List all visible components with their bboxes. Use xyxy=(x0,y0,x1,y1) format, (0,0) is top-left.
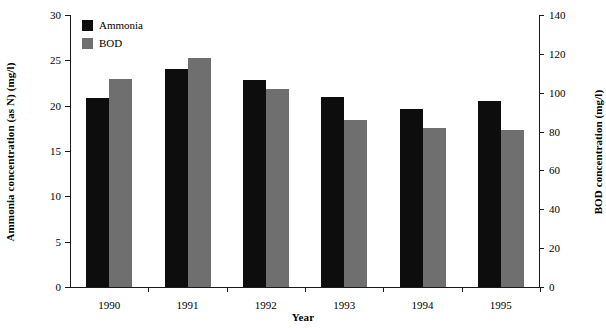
x-axis-tick xyxy=(148,287,149,292)
legend-swatch-icon xyxy=(82,38,93,49)
y-axis-left-tick xyxy=(65,287,70,288)
x-axis-tick-label: 1992 xyxy=(236,299,296,311)
bar-bod-1994 xyxy=(423,128,446,287)
y-axis-right-tick-label: 0 xyxy=(549,282,581,293)
bar-bod-1992 xyxy=(266,89,289,287)
x-axis-tick xyxy=(383,287,384,292)
bar-ammonia-1991 xyxy=(165,69,188,287)
y-axis-left-tick-label: 20 xyxy=(29,101,61,112)
y-axis-left-tick xyxy=(65,60,70,61)
x-axis-tick xyxy=(227,287,228,292)
x-axis-tick-label: 1994 xyxy=(393,299,453,311)
bar-ammonia-1992 xyxy=(243,80,266,287)
y-axis-right-tick-label: 80 xyxy=(549,127,581,138)
y-axis-right-tick-label: 120 xyxy=(549,49,581,60)
y-axis-right-tick xyxy=(539,170,544,171)
y-axis-right-tick-label: 60 xyxy=(549,165,581,176)
x-axis-tick xyxy=(540,287,541,292)
y-axis-right-tick xyxy=(539,248,544,249)
x-axis-tick xyxy=(305,287,306,292)
x-axis-tick-label: 1991 xyxy=(158,299,218,311)
y-axis-left-title: Ammonia concentration (as N) (mg/l) xyxy=(2,8,18,296)
y-axis-left-tick-label: 10 xyxy=(29,191,61,202)
x-axis-tick xyxy=(462,287,463,292)
y-axis-left-tick xyxy=(65,196,70,197)
y-axis-left-tick-label: 30 xyxy=(29,10,61,21)
legend-swatch-icon xyxy=(82,20,93,31)
bar-bod-1990 xyxy=(109,79,132,287)
y-axis-right-tick xyxy=(539,15,544,16)
y-axis-right-tick xyxy=(539,132,544,133)
y-axis-left-tick xyxy=(65,15,70,16)
y-axis-left-tick-label: 25 xyxy=(29,55,61,66)
bar-chart: Ammonia concentration (as N) (mg/l) BOD … xyxy=(0,0,606,328)
y-axis-left-tick xyxy=(65,242,70,243)
y-axis-right-tick xyxy=(539,54,544,55)
y-axis-left-line xyxy=(70,15,71,288)
y-axis-right-line xyxy=(539,15,540,288)
bar-bod-1991 xyxy=(188,58,211,287)
y-axis-right-tick xyxy=(539,209,544,210)
y-axis-left-tick xyxy=(65,151,70,152)
chart-legend: AmmoniaBOD xyxy=(82,16,143,52)
bar-ammonia-1993 xyxy=(321,97,344,287)
y-axis-left-tick xyxy=(65,106,70,107)
legend-item-bod: BOD xyxy=(82,34,143,52)
y-axis-left-tick-label: 5 xyxy=(29,237,61,248)
plot-area: 051015202530 020406080100120140 19901991… xyxy=(70,15,540,287)
y-axis-right-tick-label: 100 xyxy=(549,88,581,99)
y-axis-right-title: BOD concentration (mg/l) xyxy=(590,8,606,296)
x-axis-tick-label: 1995 xyxy=(471,299,531,311)
x-axis-tick-label: 1993 xyxy=(314,299,374,311)
bar-ammonia-1995 xyxy=(478,101,501,287)
y-axis-left-tick-label: 0 xyxy=(29,282,61,293)
y-axis-right-tick-label: 40 xyxy=(549,204,581,215)
bar-ammonia-1994 xyxy=(400,109,423,287)
y-axis-left-tick-label: 15 xyxy=(29,146,61,157)
legend-label: BOD xyxy=(99,38,122,49)
y-axis-right-tick xyxy=(539,93,544,94)
x-axis-title: Year xyxy=(0,311,606,323)
legend-item-ammonia: Ammonia xyxy=(82,16,143,34)
y-axis-right-tick-label: 140 xyxy=(549,10,581,21)
legend-label: Ammonia xyxy=(99,20,143,31)
bar-bod-1995 xyxy=(501,130,524,287)
bar-bod-1993 xyxy=(344,120,367,287)
bar-ammonia-1990 xyxy=(86,98,109,287)
y-axis-right-tick-label: 20 xyxy=(549,243,581,254)
x-axis-tick-label: 1990 xyxy=(79,299,139,311)
